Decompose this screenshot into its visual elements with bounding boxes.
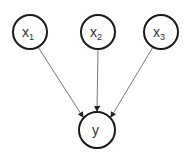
node-x3: x3 xyxy=(144,15,178,49)
node-x2: x2 xyxy=(81,15,115,49)
svg-text:y: y xyxy=(92,122,99,138)
edge-x3-y xyxy=(111,47,153,117)
node-x1: x1 xyxy=(13,15,47,49)
diagram-canvas: x1 x2 x3 y xyxy=(0,0,190,156)
edge-x1-y xyxy=(38,47,83,117)
edge-x2-y xyxy=(97,49,98,111)
node-y: y xyxy=(79,112,115,148)
